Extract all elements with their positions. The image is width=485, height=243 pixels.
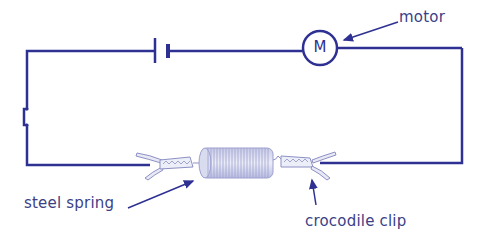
right-crocodile-clip xyxy=(281,152,336,180)
spring-arrow xyxy=(128,181,193,208)
steel-spring xyxy=(199,148,282,178)
motor-arrow xyxy=(344,22,398,40)
cell-short-plate xyxy=(166,44,170,58)
clip-arrow xyxy=(312,180,316,205)
top-wire xyxy=(27,31,462,163)
circuit-diagram: M motor steel spring crocodile clip xyxy=(0,0,485,243)
crocodile-clip-label: crocodile clip xyxy=(305,212,406,230)
motor-symbol-letter: M xyxy=(308,38,332,56)
left-crocodile-clip xyxy=(136,153,202,180)
steel-spring-label: steel spring xyxy=(24,194,114,212)
motor-label: motor xyxy=(399,8,445,26)
switch-symbol xyxy=(24,107,150,165)
